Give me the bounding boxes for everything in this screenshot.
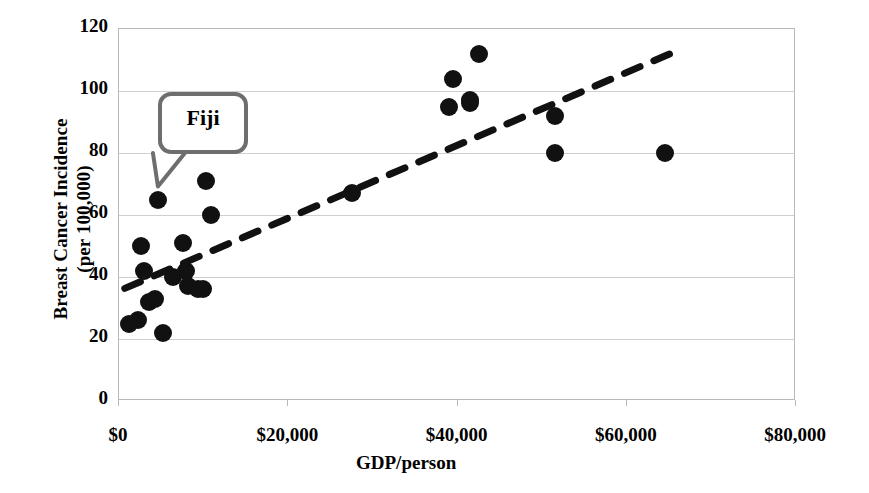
y-tick-label-0: 0 xyxy=(52,387,108,409)
x-tickmark-40000 xyxy=(457,400,458,406)
data-point xyxy=(343,184,361,202)
data-point xyxy=(197,172,215,190)
y-tick-label-80: 80 xyxy=(52,139,108,161)
data-point xyxy=(146,290,164,308)
fiji-callout-label: Fiji xyxy=(158,105,248,131)
x-tick-label-0: $0 xyxy=(58,424,178,446)
x-tick-label-60000: $60,000 xyxy=(566,424,686,446)
data-point xyxy=(656,144,674,162)
gridline-60 xyxy=(119,215,794,216)
x-tickmark-20000 xyxy=(287,400,288,406)
x-tickmark-0 xyxy=(118,400,119,406)
y-tick-label-20: 20 xyxy=(52,325,108,347)
plot-area xyxy=(118,28,795,400)
data-point xyxy=(129,311,147,329)
data-point xyxy=(154,324,172,342)
y-tick-label-40: 40 xyxy=(52,263,108,285)
data-point xyxy=(132,237,150,255)
x-tick-label-40000: $40,000 xyxy=(397,424,517,446)
data-point xyxy=(470,45,488,63)
y-tick-label-120: 120 xyxy=(52,15,108,37)
gridline-20 xyxy=(119,339,794,340)
x-tickmark-80000 xyxy=(795,400,796,406)
data-point xyxy=(444,70,462,88)
gridline-40 xyxy=(119,277,794,278)
data-point xyxy=(149,191,167,209)
y-tick-label-60: 60 xyxy=(52,201,108,223)
data-point xyxy=(546,144,564,162)
data-point xyxy=(202,206,220,224)
data-point xyxy=(135,262,153,280)
y-tick-label-100: 100 xyxy=(52,77,108,99)
x-tickmark-60000 xyxy=(626,400,627,406)
x-tick-label-80000: $80,000 xyxy=(735,424,855,446)
data-point xyxy=(194,280,212,298)
x-axis-title: GDP/person xyxy=(356,452,456,474)
data-point xyxy=(546,107,564,125)
data-point xyxy=(440,98,458,116)
data-point xyxy=(461,94,479,112)
chart-figure: Breast Cancer Incidence (per 100,000) 12… xyxy=(0,0,869,493)
data-point xyxy=(174,234,192,252)
x-tick-label-20000: $20,000 xyxy=(227,424,347,446)
